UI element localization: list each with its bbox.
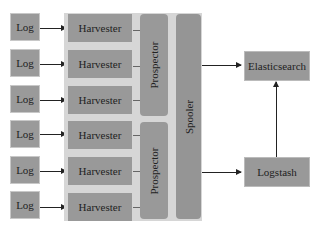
harvester-node-4: Harvester [68,121,132,149]
connector-tick [133,207,140,208]
harvester-label: Harvester [79,22,122,34]
log-label: Log [16,21,34,33]
harvester-node-2: Harvester [68,50,132,78]
arrow-log-harvester [40,28,66,29]
arrow-log-harvester [40,134,66,135]
log-label: Log [16,57,34,69]
log-node-2: Log [10,49,40,77]
harvester-label: Harvester [79,129,122,141]
arrow-log-harvester [40,100,66,101]
log-node-6: Log [10,191,40,219]
spooler-label: Spooler [183,99,195,133]
log-node-3: Log [10,85,40,113]
connector-tick [133,135,140,136]
log-node-1: Log [10,13,40,41]
harvester-label: Harvester [79,165,122,177]
log-label: Log [16,164,34,176]
arrow-spooler-elasticsearch [202,65,241,66]
arrow-spooler-logstash [202,172,241,173]
prospector-node-2: Prospector [140,122,168,219]
elasticsearch-node: Elasticsearch [244,51,310,81]
prospector-node-1: Prospector [140,14,168,116]
harvester-label: Harvester [79,58,122,70]
arrow-log-harvester [40,64,66,65]
prospector-label: Prospector [148,41,160,88]
elasticsearch-label: Elasticsearch [248,60,306,72]
prospector-label: Prospector [148,147,160,194]
harvester-label: Harvester [79,94,122,106]
log-node-5: Log [10,156,40,184]
connector-tick [133,171,140,172]
log-label: Log [16,93,34,105]
harvester-node-1: Harvester [68,14,132,42]
connector-tick [133,66,140,67]
spooler-node: Spooler [176,14,201,219]
logstash-node: Logstash [244,157,310,187]
log-label: Log [16,128,34,140]
arrow-logstash-elasticsearch [276,82,277,157]
connector-tick [133,100,140,101]
logstash-label: Logstash [257,166,297,178]
harvester-node-6: Harvester [68,193,132,221]
arrow-log-harvester [40,171,66,172]
connector-tick [133,30,140,31]
log-label: Log [16,199,34,211]
log-node-4: Log [10,120,40,148]
harvester-node-5: Harvester [68,157,132,185]
harvester-node-3: Harvester [68,86,132,114]
harvester-label: Harvester [79,201,122,213]
arrow-log-harvester [40,207,66,208]
